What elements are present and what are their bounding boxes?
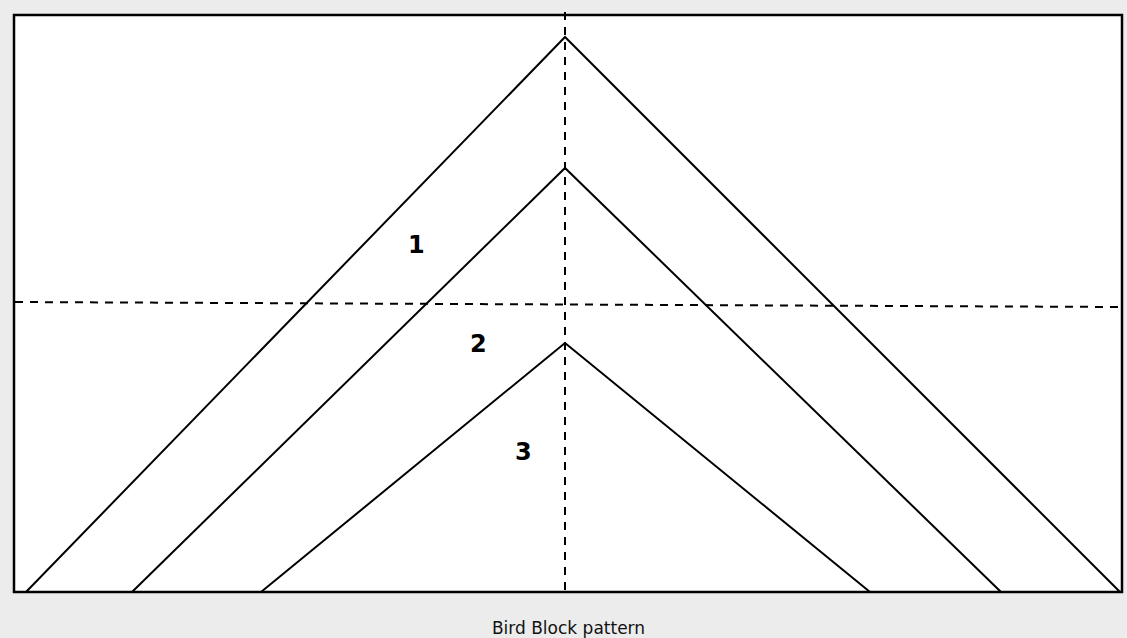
- piece-label-1: 1: [408, 233, 425, 257]
- figure-caption: Bird Block pattern: [0, 618, 1127, 638]
- piece-label-2: 2: [470, 332, 487, 356]
- piece-label-3: 3: [515, 440, 532, 464]
